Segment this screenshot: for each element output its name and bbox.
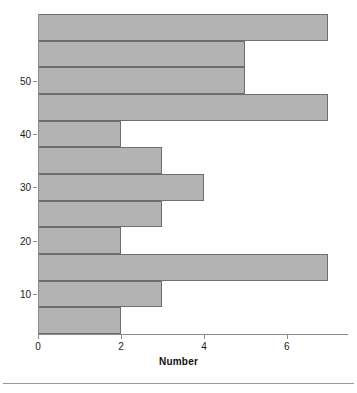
y-tick-mark: [33, 81, 37, 82]
bar: [38, 174, 204, 201]
y-tick-label: 50: [20, 75, 31, 86]
bar: [38, 307, 121, 334]
x-tick-label: 6: [284, 341, 290, 352]
y-tick-mark: [33, 241, 37, 242]
y-tick-label: 20: [20, 235, 31, 246]
y-tick-label: 10: [20, 289, 31, 300]
y-tick-label: 30: [20, 182, 31, 193]
y-tick-mark: [33, 134, 37, 135]
bar: [38, 227, 121, 254]
y-tick-mark: [33, 187, 37, 188]
x-tick-label: 0: [35, 341, 41, 352]
histogram-figure: 0246 1020304050 Number: [0, 0, 357, 393]
bar: [38, 254, 328, 281]
x-tick-mark: [38, 335, 39, 339]
x-tick-mark: [287, 335, 288, 339]
x-tick-label: 2: [118, 341, 124, 352]
bar: [38, 201, 162, 228]
plot-area: [38, 14, 330, 334]
x-axis-line: [38, 334, 348, 335]
bar: [38, 147, 162, 174]
y-tick-mark: [33, 294, 37, 295]
footer-divider: [3, 383, 354, 384]
bar: [38, 14, 328, 41]
x-tick-mark: [121, 335, 122, 339]
bar: [38, 41, 245, 68]
y-axis-line: [38, 14, 39, 334]
x-tick-label: 4: [201, 341, 207, 352]
bar: [38, 281, 162, 308]
x-tick-mark: [204, 335, 205, 339]
y-axis-tick-labels: 1020304050: [0, 0, 31, 393]
bar: [38, 94, 328, 121]
bar: [38, 67, 245, 94]
bar: [38, 121, 121, 148]
x-axis-title: Number: [0, 356, 357, 367]
y-tick-label: 40: [20, 129, 31, 140]
